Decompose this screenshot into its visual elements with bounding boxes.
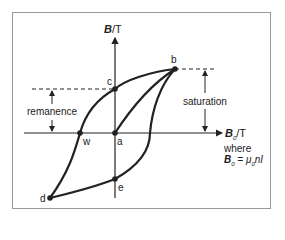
point-a xyxy=(112,130,118,136)
point-w xyxy=(77,130,83,136)
remanence-label: remanence xyxy=(27,107,77,117)
label-d: d xyxy=(40,194,46,204)
label-a: a xyxy=(117,137,123,147)
y-axis-label: B/T xyxy=(104,24,122,35)
label-c: c xyxy=(107,77,112,87)
label-e: e xyxy=(118,183,124,193)
where-text: where xyxy=(224,144,251,154)
label-b: b xyxy=(171,55,177,65)
label-w: w xyxy=(83,137,90,147)
initial-magnetization-curve xyxy=(115,69,175,133)
point-c xyxy=(112,86,118,92)
x-axis-label: B0/T xyxy=(225,128,246,141)
point-e xyxy=(112,176,118,182)
formula: B0 = μ0nI xyxy=(224,155,263,167)
saturation-label: saturation xyxy=(183,97,227,107)
point-d xyxy=(47,195,53,201)
point-b xyxy=(172,66,178,72)
